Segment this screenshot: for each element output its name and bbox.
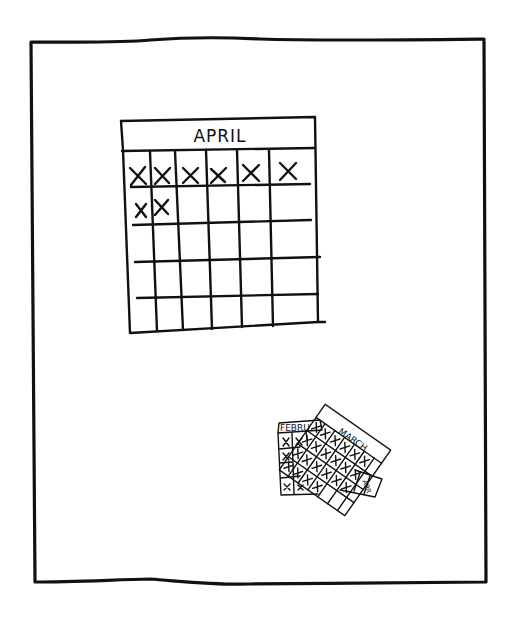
comic-drawing: APRIL — [0, 0, 516, 618]
april-calendar — [121, 117, 325, 333]
discarded-calendar-pile — [278, 404, 391, 515]
april-small-label: APR — [360, 479, 372, 495]
february-label: FEBRU — [280, 423, 310, 433]
panel-border — [31, 38, 486, 585]
comic-panel: APRIL — [0, 0, 516, 618]
march-page — [279, 404, 390, 515]
april-month-label: APRIL — [193, 126, 246, 146]
